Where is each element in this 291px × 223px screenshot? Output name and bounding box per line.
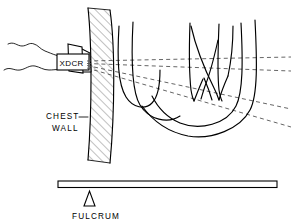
ventricle-outer-left-wall xyxy=(132,22,180,120)
cable-strand-upper xyxy=(8,43,57,55)
transducer-label: XDCR xyxy=(60,59,84,68)
fulcrum-assembly: FULCRUM xyxy=(58,181,277,221)
leaflet-posterior-stem xyxy=(218,24,222,101)
fulcrum-pivot-triangle xyxy=(84,191,95,206)
transducer-cable xyxy=(4,43,58,70)
fulcrum-bar xyxy=(58,181,277,188)
transducer-assembly: XDCR xyxy=(57,44,91,73)
leaflet-central-valley-right xyxy=(219,76,228,100)
chest-wall-hatch-fill xyxy=(88,8,114,163)
fulcrum-label: FULCRUM xyxy=(72,212,120,221)
chest-wall-label-line2: WALL xyxy=(52,124,79,133)
beam-line-4 xyxy=(87,68,291,127)
diagram-canvas: CHEST WALL XDCR xyxy=(0,0,291,223)
chest-wall xyxy=(88,8,114,163)
left-ventricle xyxy=(118,20,256,137)
echocardiography-diagram: CHEST WALL XDCR xyxy=(0,0,291,223)
chest-wall-label-line1: CHEST xyxy=(46,112,80,121)
beam-line-3 xyxy=(87,66,291,110)
mitral-valve-leaflets xyxy=(189,23,233,101)
cable-strand-lower xyxy=(4,66,58,70)
ventricle-inner-left-wall xyxy=(118,26,160,107)
chest-wall-label: CHEST WALL xyxy=(46,112,88,133)
